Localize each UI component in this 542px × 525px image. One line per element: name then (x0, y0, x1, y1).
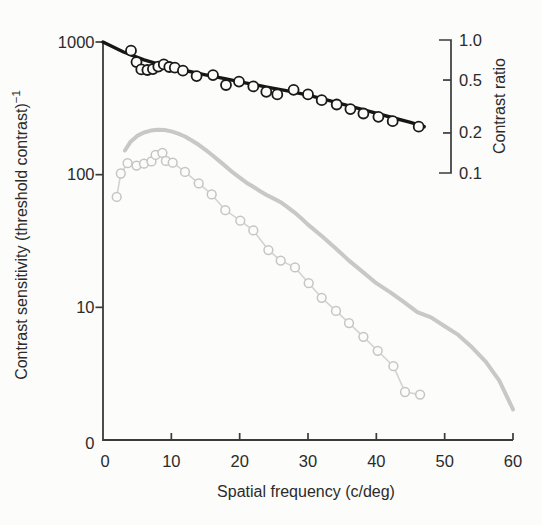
right-axis-title: Contrast ratio (491, 58, 508, 154)
y-axis-title: Contrast sensitivity (threshold contrast… (10, 90, 30, 380)
data-point-black-data-points (345, 104, 355, 114)
data-point-gray-data-points (112, 193, 121, 202)
data-point-gray-data-points (221, 206, 230, 215)
data-point-black-data-points (221, 80, 231, 90)
data-point-black-data-points (126, 46, 136, 56)
data-point-gray-data-points (401, 388, 410, 397)
series-gray-data-points-line (117, 153, 420, 395)
data-point-black-data-points (272, 89, 282, 99)
data-point-gray-data-points (389, 362, 398, 371)
data-point-gray-data-points (236, 216, 245, 225)
data-point-gray-data-points (123, 159, 132, 168)
right-scale-bar (439, 40, 451, 173)
data-point-black-data-points (388, 116, 398, 126)
data-point-gray-data-points (345, 319, 354, 328)
y2-tick-label: 0.5 (459, 71, 482, 89)
y2-tick-label: 1.0 (459, 31, 482, 49)
data-point-black-data-points (248, 81, 258, 91)
data-point-gray-data-points (249, 226, 258, 235)
data-point-black-data-points (261, 87, 271, 97)
contrast-sensitivity-chart: 100010010001020304050601.00.50.20.1 Cont… (0, 0, 542, 525)
data-point-black-data-points (289, 85, 299, 95)
y-tick-label: 0 (85, 434, 94, 452)
data-point-black-data-points (317, 95, 327, 105)
x-tick-label: 20 (230, 452, 248, 470)
data-point-black-data-points (358, 109, 368, 119)
data-point-gray-data-points (304, 279, 313, 288)
y-tick-label: 1000 (58, 33, 95, 51)
data-point-black-data-points (303, 89, 313, 99)
data-point-gray-data-points (291, 263, 300, 272)
data-point-gray-data-points (181, 168, 190, 177)
data-point-gray-data-points (264, 246, 273, 255)
data-point-gray-data-points (317, 293, 326, 302)
data-point-black-data-points (178, 66, 188, 76)
x-tick-label: 40 (367, 452, 385, 470)
x-tick-label: 10 (162, 452, 180, 470)
data-point-black-data-points (414, 122, 424, 132)
data-point-black-data-points (373, 112, 383, 122)
data-point-gray-data-points (168, 158, 177, 167)
y2-tick-label: 0.2 (459, 123, 482, 141)
data-point-black-data-points (234, 77, 244, 87)
axes-layer: 100010010001020304050601.00.50.20.1 (58, 31, 522, 470)
y-tick-label: 10 (76, 298, 94, 316)
data-point-gray-data-points (373, 346, 382, 355)
data-point-black-data-points (208, 70, 218, 80)
data-point-gray-data-points (359, 332, 368, 341)
data-point-gray-data-points (116, 169, 125, 178)
y2-tick-label: 0.1 (459, 164, 482, 182)
data-point-gray-data-points (207, 190, 216, 199)
figure-page: 100010010001020304050601.00.50.20.1 Cont… (0, 0, 542, 525)
data-point-gray-data-points (332, 307, 341, 316)
data-point-black-data-points (332, 100, 342, 110)
x-axis-title: Spatial frequency (c/deg) (217, 483, 395, 500)
x-tick-label: 60 (504, 452, 522, 470)
data-point-gray-data-points (276, 256, 285, 265)
data-point-gray-data-points (194, 179, 203, 188)
data-point-gray-data-points (416, 390, 425, 399)
y-tick-label: 100 (67, 165, 95, 183)
x-tick-label: 50 (435, 452, 453, 470)
data-point-black-data-points (192, 71, 202, 81)
x-tick-label: 0 (100, 452, 109, 470)
x-tick-label: 30 (299, 452, 317, 470)
